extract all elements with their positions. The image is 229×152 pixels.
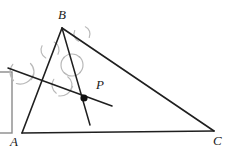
vertex-label-a: A (10, 135, 18, 148)
vertex-label-b: B (58, 8, 66, 21)
point-p-marker (80, 94, 87, 101)
geometry-diagram-svg (0, 0, 229, 152)
point-label-p: P (96, 78, 104, 91)
vertex-label-c: C (213, 134, 222, 147)
geometry-figure-root: B A C P (0, 0, 229, 152)
figure-background (0, 0, 229, 152)
